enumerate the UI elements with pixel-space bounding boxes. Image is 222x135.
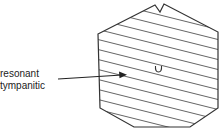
region-marker-icon [155, 66, 161, 72]
percussion-diagram [0, 0, 222, 135]
hatch-lines [60, 0, 222, 135]
arrowhead-icon [119, 72, 127, 79]
chest-outline [98, 4, 218, 127]
arrow [58, 72, 127, 80]
